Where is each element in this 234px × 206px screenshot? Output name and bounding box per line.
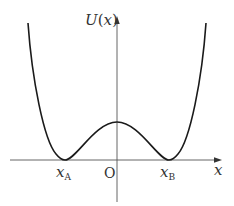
minimum-left-label: xA <box>56 163 71 182</box>
minimum-right-label: xB <box>160 163 175 182</box>
x-axis-label: x <box>214 161 223 179</box>
potential-diagram: U(x) x O xA xB <box>0 0 234 206</box>
y-axis-label: U(x) <box>85 11 118 29</box>
origin-label: O <box>104 165 115 181</box>
